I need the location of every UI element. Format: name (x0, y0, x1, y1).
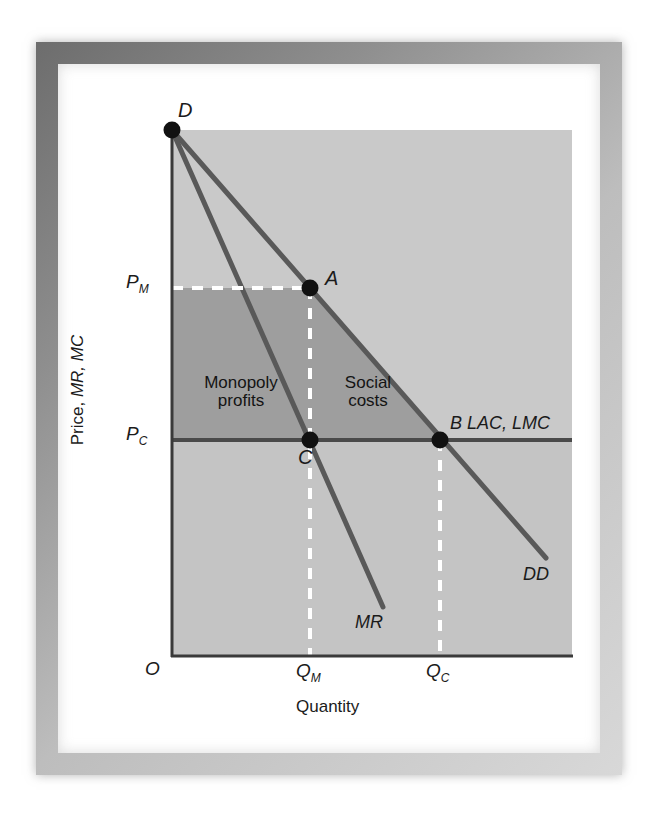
y-axis-title: Price, MR, MC (68, 290, 88, 490)
x-axis-title: Quantity (296, 698, 359, 716)
region-label-social-costs-line1: Social (318, 374, 418, 392)
y-tick-label-monopoly-price: PM (126, 272, 149, 295)
cost-curve-label-b-lac-lmc: B LAC, LMC (450, 414, 550, 433)
y-tick-base-pm: P (126, 271, 139, 292)
y-axis-title-plain: Price, (68, 397, 87, 445)
point-a-marker (302, 280, 319, 297)
region-label-social-costs-line2: costs (318, 392, 418, 410)
region-label-monopoly-profits-line2: profits (178, 392, 304, 410)
region-label-monopoly-profits: Monopoly profits (178, 374, 304, 410)
y-tick-sub-pm: M (139, 282, 149, 296)
y-tick-sub-pc: C (139, 434, 148, 448)
x-tick-base-qc: Q (426, 660, 441, 681)
y-tick-label-competitive-price: PC (126, 424, 147, 447)
point-d-marker (164, 122, 181, 139)
x-tick-base-qm: Q (296, 660, 311, 681)
y-tick-base-pc: P (126, 423, 139, 444)
x-tick-sub-qc: C (441, 671, 450, 685)
x-tick-sub-qm: M (311, 671, 321, 685)
origin-label: O (145, 659, 160, 679)
region-label-social-costs: Social costs (318, 374, 418, 410)
x-tick-label-competitive-quantity: QC (426, 661, 449, 684)
region-label-monopoly-profits-line1: Monopoly (178, 374, 304, 392)
point-b-marker (432, 432, 449, 449)
point-label-d: D (178, 100, 192, 121)
point-label-c: C (298, 447, 312, 468)
economics-diagram-figure: Price, MR, MC Quantity O PM PC QM QC D A… (0, 0, 658, 817)
curve-label-mr: MR (355, 613, 383, 632)
x-tick-label-monopoly-quantity: QM (296, 661, 321, 684)
y-axis-title-italic: MR, MC (68, 335, 87, 397)
curve-label-dd: DD (523, 565, 549, 584)
region-monopoly-profits-shape (172, 288, 310, 440)
point-label-a: A (325, 268, 338, 289)
